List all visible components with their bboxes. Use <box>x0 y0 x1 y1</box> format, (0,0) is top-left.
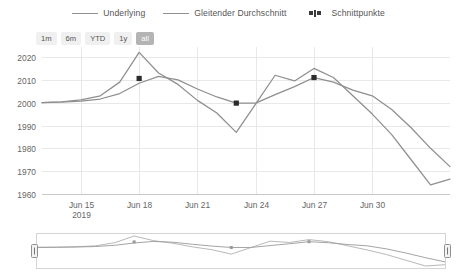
range-button-ytd[interactable]: YTD <box>85 32 110 45</box>
navigator-left-handle[interactable] <box>32 245 38 258</box>
navigator-intersection-marker <box>230 246 233 249</box>
x-axis-year-label: 2019 <box>72 210 91 220</box>
x-axis-tick-label: Jun 24 <box>244 200 269 210</box>
navigator-outline <box>37 234 446 269</box>
series-line-underlying <box>42 52 450 184</box>
legend-label-intersections: Schnittpunkte <box>331 8 384 18</box>
y-axis-tick-label: 2000 <box>17 99 36 109</box>
intersection-point-marker[interactable] <box>311 75 316 80</box>
navigator-series-moving-average <box>37 241 445 261</box>
legend-item-underlying[interactable]: Underlying <box>72 8 145 18</box>
x-axis-tick-labels: Jun 152019Jun 18Jun 21Jun 24Jun 27Jun 30 <box>69 200 385 220</box>
x-axis-tick-label: Jun 18 <box>127 200 152 210</box>
navigator-series-underlying <box>37 236 445 266</box>
points-swatch-icon <box>304 9 326 18</box>
y-axis-tick-label: 1970 <box>17 167 36 177</box>
x-axis-tick-label: Jun 27 <box>302 200 327 210</box>
line-swatch-icon <box>72 13 98 14</box>
range-button-6m[interactable]: 6m <box>61 32 82 45</box>
y-axis-tick-labels: 2020201020001990198019701960 <box>17 53 36 200</box>
range-button-all[interactable]: all <box>136 32 154 45</box>
chart-legend: Underlying Gleitender Durchschnitt Schni… <box>0 8 457 18</box>
x-axis-tick-label: Jun 30 <box>360 200 385 210</box>
legend-label-moving-average: Gleitender Durchschnitt <box>194 8 286 18</box>
y-axis-tick-label: 1990 <box>17 122 36 132</box>
navigator-intersection-marker <box>133 240 136 243</box>
navigator-intersection-marker <box>308 240 311 243</box>
x-axis-tick-label: Jun 15 <box>69 200 94 210</box>
stock-chart: Underlying Gleitender Durchschnitt Schni… <box>0 0 457 275</box>
intersection-point-marker[interactable] <box>137 76 142 81</box>
intersection-point-marker[interactable] <box>234 101 239 106</box>
legend-item-moving-average[interactable]: Gleitender Durchschnitt <box>163 8 286 18</box>
navigator[interactable] <box>32 234 451 269</box>
y-axis-tick-label: 2020 <box>17 53 36 63</box>
y-axis-tick-label: 1960 <box>17 190 36 200</box>
navigator-intersection-points <box>133 240 311 249</box>
grid-lines <box>42 58 450 195</box>
intersection-points <box>137 75 317 106</box>
series-line-moving-average <box>42 76 450 166</box>
range-button-1y[interactable]: 1y <box>114 32 132 45</box>
x-axis-tick-label: Jun 21 <box>185 200 210 210</box>
navigator-right-handle[interactable] <box>445 245 451 258</box>
range-selector: 1m 6m YTD 1y all <box>36 32 154 45</box>
y-axis-tick-label: 2010 <box>17 76 36 86</box>
legend-label-underlying: Underlying <box>103 8 145 18</box>
vertical-grid-lines <box>82 47 373 194</box>
range-button-1m[interactable]: 1m <box>36 32 57 45</box>
legend-item-intersections[interactable]: Schnittpunkte <box>304 8 384 18</box>
line-swatch-icon <box>163 13 189 14</box>
y-axis-tick-label: 1980 <box>17 144 36 154</box>
